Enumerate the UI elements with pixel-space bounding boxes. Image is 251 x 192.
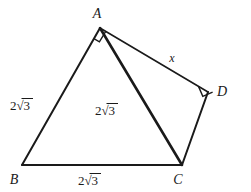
svg-text:2√3: 2√3 (78, 173, 98, 188)
side-label-BC: 2√3 (78, 173, 101, 188)
label-AC-radicand: 3 (109, 103, 116, 118)
edge-DC (182, 92, 208, 165)
vertex-label-C: C (173, 172, 183, 187)
vertex-label-B: B (10, 172, 19, 187)
svg-text:2√3: 2√3 (95, 103, 115, 118)
edge-AC (100, 28, 182, 165)
vertex-label-D: D (216, 84, 227, 99)
edge-AD (100, 28, 208, 92)
vertex-label-A: A (92, 6, 102, 21)
side-label-AB: 2√3 (10, 98, 33, 113)
edge-AB (22, 28, 100, 165)
side-label-AC: 2√3 (95, 103, 118, 118)
label-BC-radicand: 3 (92, 173, 99, 188)
label-AB-radicand: 3 (24, 98, 31, 113)
side-label-AD: x (168, 51, 175, 65)
svg-text:2√3: 2√3 (10, 98, 30, 113)
geometry-figure: A B C D 2√3 2√3 2√3 x (0, 0, 251, 192)
